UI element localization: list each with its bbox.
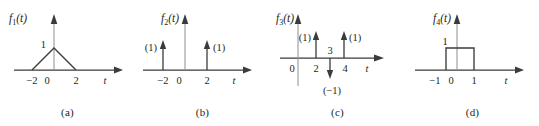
panel-a-plot: f1(t) 1 −2 0 2 t bbox=[0, 0, 135, 100]
panel-c-plot: (1) (−1) (1) f3(t) 0 2 3 4 t bbox=[270, 0, 405, 100]
tick-label-b-zero: 0 bbox=[176, 75, 181, 86]
axis-name-b: t bbox=[233, 75, 237, 86]
tick-label-c-3: 3 bbox=[327, 45, 332, 56]
tick-label-d-1: 1 bbox=[471, 75, 476, 86]
impulse-weight-c-4: (1) bbox=[349, 32, 362, 44]
vertical-axis-d bbox=[454, 14, 461, 70]
impulse-weight-b-2: (1) bbox=[213, 42, 226, 54]
signal-waveform-figure: f1(t) 1 −2 0 2 t (a) bbox=[0, 0, 539, 126]
caption-c: (c) bbox=[270, 106, 405, 118]
function-label-d: f4(t) bbox=[433, 12, 451, 27]
tick-label-a-2: 2 bbox=[73, 75, 78, 86]
horizontal-axis-d bbox=[415, 67, 524, 74]
tick-label-c-4: 4 bbox=[342, 63, 348, 74]
axis-name-d: t bbox=[505, 75, 509, 86]
caption-a: (a) bbox=[0, 106, 135, 118]
impulse-weight-b-minus2: (1) bbox=[145, 42, 158, 54]
impulse-b-minus2 bbox=[160, 40, 166, 70]
horizontal-axis-a bbox=[14, 67, 123, 74]
function-label-b: f2(t) bbox=[161, 12, 179, 27]
panel-d: f4(t) 1 −1 0 1 t (d) bbox=[405, 0, 539, 126]
function-label-c: f3(t) bbox=[276, 12, 294, 27]
tick-label-a-minus2: −2 bbox=[26, 75, 37, 86]
tick-label-b-2: 2 bbox=[204, 75, 209, 86]
tick-label-b-minus2: −2 bbox=[157, 75, 168, 86]
tick-label-a-zero: 0 bbox=[44, 75, 49, 86]
impulse-b-2 bbox=[204, 40, 210, 70]
impulse-c-2-up bbox=[313, 31, 319, 58]
rect-waveform-d bbox=[446, 48, 474, 70]
tick-label-c-zero: 0 bbox=[289, 63, 294, 74]
axis-name-a: t bbox=[104, 75, 108, 86]
caption-d: (d) bbox=[405, 106, 539, 118]
tick-label-d-zero: 0 bbox=[448, 75, 453, 86]
axis-name-c: t bbox=[366, 63, 370, 74]
amplitude-label-a: 1 bbox=[41, 39, 46, 50]
tick-label-c-2: 2 bbox=[313, 63, 318, 74]
panel-b-plot: (1) (1) f2(t) −2 0 2 t bbox=[135, 0, 270, 100]
panel-c: (1) (−1) (1) f3(t) 0 2 3 4 t (c) bbox=[270, 0, 405, 126]
impulse-c-3-down bbox=[327, 58, 333, 79]
impulse-weight-c-3: (−1) bbox=[323, 85, 342, 97]
horizontal-axis-b bbox=[143, 67, 252, 74]
amplitude-label-d: 1 bbox=[442, 36, 447, 47]
panel-a: f1(t) 1 −2 0 2 t (a) bbox=[0, 0, 135, 126]
vertical-axis-b bbox=[182, 14, 189, 70]
impulse-c-4-up bbox=[341, 31, 347, 58]
caption-b: (b) bbox=[135, 106, 270, 118]
impulse-weight-c-2: (1) bbox=[299, 32, 312, 44]
function-label-a: f1(t) bbox=[9, 12, 27, 27]
tick-label-d-minus1: −1 bbox=[429, 75, 440, 86]
panel-b: (1) (1) f2(t) −2 0 2 t (b) bbox=[135, 0, 270, 126]
panel-d-plot: f4(t) 1 −1 0 1 t bbox=[405, 0, 539, 100]
vertical-axis-c bbox=[295, 14, 302, 86]
vertical-axis-a bbox=[51, 14, 58, 70]
